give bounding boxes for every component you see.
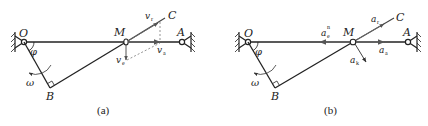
label-a: A <box>402 26 411 39</box>
svg-text:a: a <box>163 50 166 56</box>
caption-a: (a) <box>97 104 110 117</box>
label-c: C <box>396 11 405 24</box>
label-phi: φ <box>255 46 262 57</box>
label-v-a: v a <box>157 45 166 56</box>
label-o: O <box>244 27 253 40</box>
svg-text:a: a <box>371 14 376 24</box>
label-v-e: v e <box>116 55 125 66</box>
label-a: A <box>176 26 185 39</box>
slider-m <box>124 39 128 45</box>
link-bmc <box>275 42 353 88</box>
label-phi: φ <box>30 46 37 57</box>
label-a-a: a a <box>379 45 388 56</box>
label-omega: ω <box>251 77 259 88</box>
caption-b: (b) <box>324 104 337 117</box>
label-m: M <box>342 26 355 39</box>
svg-text:r: r <box>151 16 153 22</box>
link-bmc <box>50 42 126 88</box>
svg-text:n: n <box>327 24 330 30</box>
label-b: B <box>45 90 54 103</box>
dashed-line <box>127 43 160 60</box>
label-a-e-n: a e n <box>321 24 330 39</box>
svg-text:a: a <box>385 50 388 56</box>
svg-text:v: v <box>157 45 162 55</box>
figure-a: O A M B C φ ω v r v e v a (a) <box>11 9 195 117</box>
svg-text:v: v <box>116 55 121 65</box>
label-a-r: a r <box>371 14 379 25</box>
label-v-r: v r <box>145 11 153 22</box>
svg-text:e: e <box>122 60 125 66</box>
label-m: M <box>113 26 126 39</box>
figure-b: O A M B C φ ω a r a e n a a a k (b) <box>235 11 421 117</box>
svg-text:a: a <box>321 28 326 38</box>
label-omega: ω <box>26 77 34 88</box>
svg-text:v: v <box>145 11 150 21</box>
svg-text:a: a <box>379 45 384 55</box>
svg-text:a: a <box>350 55 355 65</box>
slider-m <box>350 39 356 45</box>
label-c: C <box>168 9 177 22</box>
label-b: B <box>270 90 279 103</box>
svg-text:r: r <box>377 19 379 25</box>
svg-text:e: e <box>327 33 330 39</box>
mechanism-diagram: O A M B C φ ω v r v e v a (a) <box>0 0 428 126</box>
label-o: O <box>19 27 28 40</box>
label-a-k: a k <box>350 55 359 66</box>
vector-a-r <box>356 24 384 40</box>
svg-text:k: k <box>356 60 359 66</box>
vector-v-r <box>128 23 158 41</box>
